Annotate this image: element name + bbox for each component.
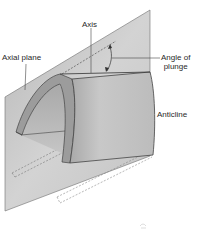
label-angle-of-plunge-line2: plunge — [161, 62, 190, 71]
anticline-body — [70, 72, 155, 163]
label-angle-of-plunge-line1: Angle of — [161, 53, 190, 62]
label-anticline: Anticline — [157, 110, 187, 119]
label-axis: Axis — [82, 20, 97, 29]
corner-mark-icon — [140, 224, 146, 228]
label-axial-plane: Axial plane — [2, 53, 41, 62]
label-angle-of-plunge: Angle of plunge — [161, 53, 190, 71]
